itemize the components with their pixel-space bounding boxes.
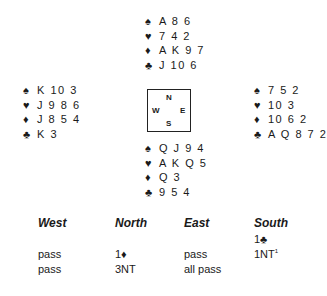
auction-call: pass — [38, 248, 61, 260]
east-hand: ♠7 5 2 ♥10 3 ♦10 6 2 ♣A Q 8 7 2 — [254, 83, 327, 141]
club-icon: ♣ — [145, 58, 159, 73]
compass-south: S — [166, 119, 171, 128]
club-icon: ♣ — [254, 127, 268, 142]
west-diamonds: ♦J 8 5 4 — [23, 112, 81, 127]
north-diamonds: ♦A K 9 7 — [145, 43, 205, 58]
diamond-icon: ♦ — [145, 170, 159, 185]
north-spades: ♠A 8 6 — [145, 14, 205, 29]
diamond-icon: ♦ — [23, 112, 37, 127]
heart-icon: ♥ — [23, 98, 37, 113]
south-hand: ♠Q J 9 4 ♥A K Q 5 ♦Q 3 ♣9 5 4 — [145, 141, 207, 199]
auction-call: pass — [38, 263, 61, 275]
spade-icon: ♠ — [145, 141, 159, 156]
east-diamonds: ♦10 6 2 — [254, 112, 327, 127]
north-hearts: ♥7 4 2 — [145, 29, 205, 44]
east-hearts: ♥10 3 — [254, 98, 327, 113]
club-icon: ♣ — [23, 127, 37, 142]
heart-icon: ♥ — [145, 156, 159, 171]
compass-east: E — [180, 106, 185, 115]
south-spades: ♠Q J 9 4 — [145, 141, 207, 156]
spade-icon: ♠ — [23, 83, 37, 98]
heart-icon: ♥ — [145, 29, 159, 44]
auction-call: pass — [184, 248, 207, 260]
auction-call: 3NT — [115, 263, 136, 275]
spade-icon: ♠ — [145, 14, 159, 29]
auction-header-south: South — [254, 216, 288, 230]
west-clubs: ♣K 3 — [23, 127, 81, 142]
club-icon: ♣ — [145, 185, 159, 200]
west-hearts: ♥J 9 8 6 — [23, 98, 81, 113]
spade-icon: ♠ — [254, 83, 268, 98]
diamond-icon: ♦ — [145, 43, 159, 58]
heart-icon: ♥ — [254, 98, 268, 113]
footnote-marker: 1 — [275, 248, 278, 254]
south-clubs: ♣9 5 4 — [145, 185, 207, 200]
auction-call: all pass — [184, 263, 221, 275]
auction-header-north: North — [115, 216, 147, 230]
north-hand: ♠A 8 6 ♥7 4 2 ♦A K 9 7 ♣J 10 6 — [145, 14, 205, 72]
south-hearts: ♥A K Q 5 — [145, 156, 207, 171]
auction-call-with-footnote: 1NT1 — [254, 248, 278, 260]
north-clubs: ♣J 10 6 — [145, 58, 205, 73]
auction-call: 1♦ — [115, 248, 127, 260]
east-spades: ♠7 5 2 — [254, 83, 327, 98]
west-spades: ♠K 10 3 — [23, 83, 81, 98]
east-clubs: ♣A Q 8 7 2 — [254, 127, 327, 142]
auction-header-east: East — [184, 216, 209, 230]
diamond-icon: ♦ — [254, 112, 268, 127]
south-diamonds: ♦Q 3 — [145, 170, 207, 185]
auction-call: 1♣ — [254, 233, 267, 245]
compass-west: W — [152, 106, 160, 115]
west-hand: ♠K 10 3 ♥J 9 8 6 ♦J 8 5 4 ♣K 3 — [23, 83, 81, 141]
compass-box: N W E S — [147, 89, 191, 132]
auction-header-west: West — [38, 216, 66, 230]
compass-north: N — [166, 93, 172, 102]
